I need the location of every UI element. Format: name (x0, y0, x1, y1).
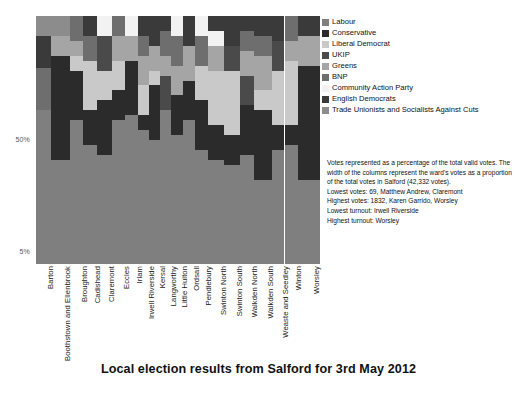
ward-column (240, 16, 254, 264)
legend-label: BNP (332, 73, 348, 81)
legend-item: English Democrats (322, 94, 514, 104)
bar-segment (171, 135, 183, 264)
bar-segment (208, 46, 223, 71)
chart-plot-area (36, 16, 320, 264)
x-axis-tick-label: Irwell Riverside (147, 266, 156, 319)
bar-segment (125, 115, 138, 264)
bar-segment (285, 41, 298, 61)
bar-segment (160, 76, 171, 111)
legend-swatch-icon (322, 30, 329, 37)
bar-segment (83, 16, 97, 36)
x-axis-tick-label: Walkden North (250, 266, 259, 317)
legend-swatch-icon (322, 96, 329, 103)
bar-segment (36, 110, 51, 264)
ward-column (254, 16, 272, 264)
bar-segment (285, 125, 298, 145)
bar-segment (195, 66, 209, 101)
bar-segment (70, 120, 84, 264)
bar-segment (112, 90, 126, 120)
chart-notes: Votes represented as a percentage of the… (327, 158, 515, 225)
ward-column (160, 16, 171, 264)
x-axis-tick-label: Ordsall (192, 266, 201, 291)
x-axis: BartonBoothstown and EllenbrookBroughton… (36, 266, 320, 352)
bar-segment (254, 180, 272, 264)
legend-item: Labour (322, 17, 514, 27)
x-axis-tick-label: Kersal (158, 266, 167, 288)
bar-segment (208, 71, 223, 126)
bar-segment (224, 165, 241, 264)
y-axis: 50%5% (0, 16, 34, 264)
bar-segment (208, 160, 223, 264)
bar-segment (160, 16, 171, 31)
legend-item: Community Action Party (322, 83, 514, 93)
bar-segment (97, 71, 112, 101)
legend-label: Labour (332, 18, 356, 26)
bar-segment (51, 36, 70, 56)
bar-segment (208, 125, 223, 160)
bar-segment (224, 16, 241, 46)
bar-segment (138, 85, 149, 115)
legend-label: Trade Unionists and Socialists Against C… (332, 106, 479, 114)
bar-segment (149, 140, 160, 264)
notes-line-highest-turnout: Highest turnout: Worsley (327, 216, 515, 226)
ward-column (97, 16, 112, 264)
bar-segment (298, 180, 320, 264)
bar-segment (70, 71, 84, 121)
x-axis-tick-label: Langworthy (169, 266, 178, 306)
bar-segment (208, 16, 223, 31)
legend-label: Greens (332, 62, 357, 70)
bar-segment (51, 56, 70, 160)
bar-segment (272, 41, 284, 71)
bar-segment (224, 71, 241, 135)
bar-segment (224, 46, 241, 71)
legend-swatch-icon (322, 107, 329, 114)
bar-segment (195, 16, 209, 36)
bar-segment (272, 71, 284, 126)
x-axis-tick-label: Irlam (135, 266, 144, 283)
y-axis-tick-label: 50% (15, 136, 30, 143)
bar-segment (70, 16, 84, 41)
ward-column (298, 16, 320, 264)
bar-segment (254, 110, 272, 179)
bar-segment (160, 31, 171, 56)
bar-segment (149, 16, 160, 46)
bar-segment (171, 16, 183, 36)
bar-segment (83, 145, 97, 264)
bar-segment (149, 46, 160, 71)
bar-segment (240, 105, 254, 155)
bar-segment (70, 56, 84, 71)
bar-segment (240, 155, 254, 264)
bar-segment (149, 85, 160, 140)
bar-segment (224, 135, 241, 165)
bar-segment (285, 61, 298, 125)
legend-item: Trade Unionists and Socialists Against C… (322, 105, 514, 115)
legend-swatch-icon (322, 74, 329, 81)
bar-segment (272, 150, 284, 264)
bar-segment (160, 110, 171, 264)
bar-segment (240, 16, 254, 31)
x-axis-tick-label: Swinton South (235, 266, 244, 316)
chart-title: Local election results from Salford for … (0, 362, 517, 376)
bar-segment (36, 36, 51, 68)
bar-segment (97, 155, 112, 264)
ward-column (51, 16, 70, 264)
bar-segment (36, 68, 51, 110)
bar-segment (83, 36, 97, 61)
bar-segment (195, 100, 209, 150)
x-axis-tick-label: Swinton North (219, 266, 228, 315)
ward-column (183, 16, 194, 264)
bar-segment (240, 76, 254, 106)
bar-segment (254, 36, 272, 56)
bar-segment (195, 150, 209, 264)
ward-column (272, 16, 284, 264)
bar-segment (171, 36, 183, 66)
legend-swatch-icon (322, 41, 329, 48)
bar-segment (183, 120, 194, 264)
bar-segment (285, 145, 298, 264)
notes-line-highest-votes: Highest votes: 1832, Karen Garrido, Wors… (327, 196, 515, 206)
x-axis-tick-label: Claremont (107, 266, 116, 302)
bar-segment (171, 66, 183, 96)
legend-swatch-icon (322, 85, 329, 92)
legend-item: BNP (322, 72, 514, 82)
bar-segment (298, 66, 320, 180)
